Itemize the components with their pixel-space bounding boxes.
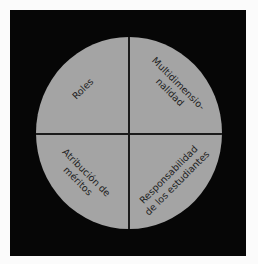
- horizontal-divider: [36, 133, 222, 135]
- quadrant-circle: [36, 37, 222, 229]
